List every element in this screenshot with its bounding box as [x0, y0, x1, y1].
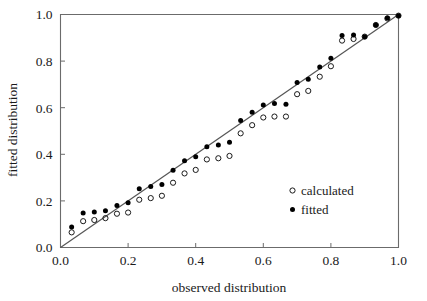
data-point-fitted-8: [159, 182, 164, 187]
data-point-fitted-14: [227, 140, 232, 145]
x-tick-label-0.8: 0.8: [322, 253, 339, 268]
y-tick-label-0.8: 0.8: [36, 54, 53, 69]
legend-label-calculated: calculated: [301, 183, 354, 198]
data-point-fitted-21: [306, 77, 311, 82]
data-point-fitted-29: [396, 13, 401, 18]
data-point-fitted-1: [81, 211, 86, 216]
data-point-fitted-9: [171, 168, 176, 173]
data-point-fitted-18: [272, 101, 277, 106]
legend-marker-fitted-icon: [290, 207, 295, 212]
data-point-fitted-27: [373, 22, 378, 27]
y-tick-label-0.2: 0.2: [36, 194, 53, 209]
data-point-fitted-4: [114, 203, 119, 208]
data-point-fitted-23: [328, 56, 333, 61]
data-point-fitted-22: [317, 64, 322, 69]
legend-label-fitted: fitted: [301, 202, 329, 217]
chart-figure: 0.00.20.40.60.81.0 0.00.20.40.60.81.0 ob…: [0, 0, 427, 301]
y-tick-label-0.0: 0.0: [36, 240, 53, 255]
x-tick-label-0.2: 0.2: [120, 253, 137, 268]
data-point-fitted-25: [351, 33, 356, 38]
data-point-fitted-0: [69, 224, 74, 229]
data-point-fitted-28: [385, 15, 390, 20]
y-tick-label-0.4: 0.4: [36, 147, 53, 162]
data-point-fitted-6: [137, 186, 142, 191]
data-point-fitted-19: [283, 102, 288, 107]
data-point-fitted-13: [216, 142, 221, 147]
data-point-fitted-12: [204, 144, 209, 149]
data-point-fitted-10: [182, 158, 187, 163]
data-point-fitted-17: [261, 102, 266, 107]
x-tick-label-1.0: 1.0: [390, 253, 407, 268]
data-point-fitted-16: [250, 110, 255, 115]
x-axis-title: observed distribution: [172, 280, 287, 295]
data-point-fitted-26: [362, 34, 367, 39]
y-tick-label-1.0: 1.0: [36, 7, 53, 22]
x-tick-label-0.6: 0.6: [255, 253, 272, 268]
data-point-fitted-15: [238, 118, 243, 123]
data-point-fitted-20: [295, 80, 300, 85]
data-point-fitted-7: [148, 184, 153, 189]
data-point-fitted-24: [340, 33, 345, 38]
scatter-plot: 0.00.20.40.60.81.0 0.00.20.40.60.81.0 ob…: [0, 0, 427, 301]
data-point-fitted-5: [126, 200, 131, 205]
data-point-fitted-3: [103, 208, 108, 213]
x-tick-label-0.0: 0.0: [52, 253, 69, 268]
y-tick-label-0.6: 0.6: [36, 101, 53, 116]
data-point-fitted-11: [193, 154, 198, 159]
y-axis-title: fitted distribution: [5, 83, 20, 177]
data-point-fitted-2: [92, 210, 97, 215]
x-tick-label-0.4: 0.4: [187, 253, 204, 268]
